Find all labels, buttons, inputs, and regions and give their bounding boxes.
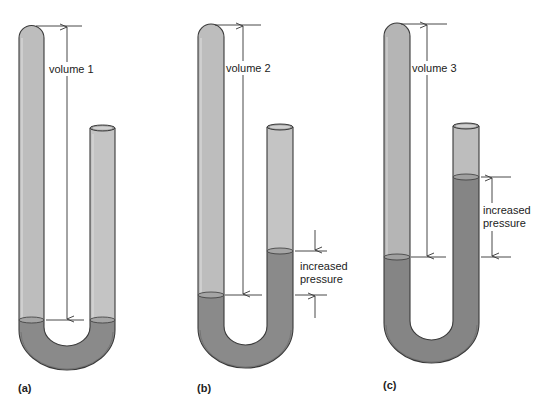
mercury-surface-right [90, 317, 115, 323]
pressure-label-line2: pressure [483, 217, 526, 229]
panel-c: volume 3 increased pressure (c) [383, 23, 538, 391]
panel-label: (b) [197, 382, 211, 394]
pressure-label-line1: increased [300, 260, 348, 272]
panel-b: volume 2 increased pressure (b) [197, 24, 348, 394]
air-column-right [267, 127, 293, 251]
mercury-surface-right [453, 174, 479, 180]
gas-column-left [19, 26, 44, 321]
mercury-surface-left [19, 317, 44, 323]
gas-column-left [198, 24, 224, 295]
mercury [19, 320, 115, 370]
panel-label: (c) [383, 379, 397, 391]
volume-label: volume 2 [226, 62, 271, 74]
mercury-surface-right [267, 248, 293, 254]
gas-column-left [384, 23, 410, 257]
panel-label: (a) [18, 382, 32, 394]
panel-a: volume 1 (a) [18, 26, 115, 395]
air-column-right [453, 126, 479, 177]
pressure-label-line1: increased [483, 204, 531, 216]
mercury-surface-left [384, 254, 410, 260]
air-column-right [90, 128, 115, 320]
mercury-surface-left [198, 292, 224, 298]
u-tube-diagram: volume 1 (a) volume 2 increased pressure… [0, 0, 559, 420]
pressure-label-line2: pressure [300, 273, 343, 285]
volume-label: volume 1 [49, 63, 94, 75]
volume-label: volume 3 [412, 62, 457, 74]
